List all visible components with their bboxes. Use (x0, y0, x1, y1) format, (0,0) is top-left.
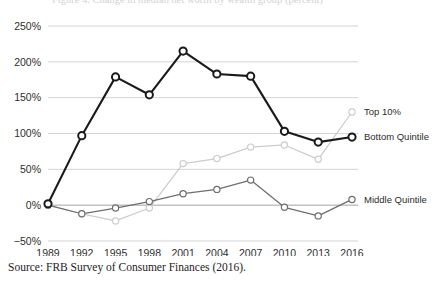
x-tick-label: 2016 (340, 247, 364, 256)
series-lines (48, 51, 352, 221)
series-markers (44, 47, 355, 224)
y-tick-label: 150% (14, 91, 41, 103)
data-point-marker (248, 144, 254, 150)
data-point-marker (247, 73, 254, 80)
data-point-marker (349, 109, 355, 115)
data-point-marker (146, 198, 152, 204)
data-point-marker (214, 186, 220, 192)
y-tick-label: 100% (14, 127, 41, 139)
data-point-marker (248, 177, 254, 183)
figure-title-text: Figure 4. Change in median net worth by … (0, 0, 446, 5)
data-point-marker (214, 155, 220, 161)
series-end-labels: Top 10%Middle QuintileBottom Quintile (364, 106, 429, 204)
data-point-marker (79, 211, 85, 217)
y-tick-label: 250% (14, 20, 41, 32)
data-point-marker (281, 142, 287, 148)
y-tick-label: 0% (26, 199, 41, 211)
y-tick-label: 50% (20, 163, 41, 175)
x-tick-label: 2007 (239, 247, 263, 256)
data-point-marker (315, 156, 321, 162)
data-point-marker (315, 139, 322, 146)
x-tick-label: 2010 (273, 247, 297, 256)
series-label-middle-quintile: Middle Quintile (364, 194, 427, 205)
x-tick-label: 1989 (36, 247, 60, 256)
chart-svg: −50%0%50%100%150%200%250% 19891992199519… (0, 8, 446, 256)
figure-root: Figure 4. Change in median net worth by … (0, 0, 446, 283)
data-point-marker (180, 161, 186, 167)
data-point-marker (44, 200, 51, 207)
data-point-marker (78, 132, 85, 139)
data-point-marker (349, 196, 355, 202)
x-axis-tick-labels: 1989199219951998200120042007201020132016 (36, 247, 364, 256)
data-point-marker (146, 205, 152, 211)
data-point-marker (112, 218, 118, 224)
x-tick-label: 2001 (171, 247, 195, 256)
data-point-marker (180, 47, 187, 54)
gridlines (48, 26, 358, 241)
y-axis-tick-labels: −50%0%50%100%150%200%250% (14, 20, 41, 247)
x-tick-label: 2013 (307, 247, 331, 256)
data-point-marker (180, 191, 186, 197)
data-point-marker (348, 133, 355, 140)
data-point-marker (213, 70, 220, 77)
x-tick-label: 2004 (205, 247, 229, 256)
data-point-marker (281, 204, 287, 210)
series-label-top-10: Top 10% (364, 106, 402, 117)
x-tick-label: 1995 (104, 247, 128, 256)
series-label-bottom-quintile: Bottom Quintile (364, 131, 429, 142)
data-point-marker (315, 213, 321, 219)
y-tick-label: 200% (14, 56, 41, 68)
y-tick-label: −50% (14, 235, 41, 247)
series-line (48, 112, 352, 221)
x-tick-label: 1998 (138, 247, 162, 256)
series-line (48, 51, 352, 204)
x-tick-label: 1992 (70, 247, 94, 256)
series-line (48, 180, 352, 216)
source-note: Source: FRB Survey of Consumer Finances … (8, 261, 246, 273)
line-chart: −50%0%50%100%150%200%250% 19891992199519… (0, 8, 446, 256)
data-point-marker (112, 73, 119, 80)
data-point-marker (112, 205, 118, 211)
data-point-marker (281, 128, 288, 135)
data-point-marker (146, 91, 153, 98)
